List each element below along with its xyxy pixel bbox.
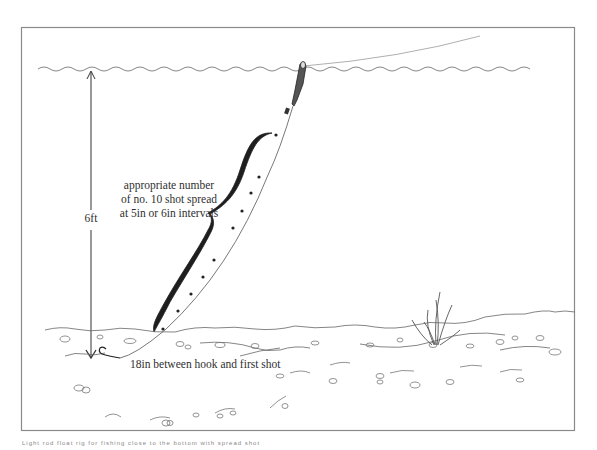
split-shot (201, 275, 204, 278)
figure-caption: Light rod float rig for fishing close to… (22, 440, 302, 448)
hook-distance-label: 18in between hook and first shot (130, 357, 280, 371)
split-shot-group (161, 133, 277, 330)
riverbed-line-lower (65, 333, 550, 356)
pebbles (60, 335, 561, 426)
split-shot (274, 133, 277, 136)
split-shot (176, 309, 179, 312)
float-icon (284, 62, 306, 115)
shot-spread-label-line-2: of no. 10 shot spread (98, 192, 240, 206)
water-surface (38, 67, 530, 71)
shot-spread-label-line-3: at 5in or 6in intervals (98, 206, 240, 220)
hook-icon (99, 347, 120, 358)
split-shot (257, 175, 260, 178)
depth-label: 6ft (80, 211, 102, 225)
split-shot (161, 327, 164, 330)
shot-spread-label: appropriate number of no. 10 shot spread… (98, 178, 240, 220)
split-shot (189, 292, 192, 295)
fishing-line-above-water (304, 36, 480, 66)
fishing-line-below-water (120, 106, 293, 358)
float-rig-diagram (0, 0, 597, 450)
split-shot (212, 258, 215, 261)
split-shot (249, 191, 252, 194)
split-shot (231, 226, 234, 229)
shot-bracket (154, 133, 273, 332)
riverbed-line (45, 311, 575, 332)
split-shot (240, 209, 243, 212)
weed-plant-icon (412, 292, 460, 345)
shot-spread-label-line-1: appropriate number (98, 178, 240, 192)
